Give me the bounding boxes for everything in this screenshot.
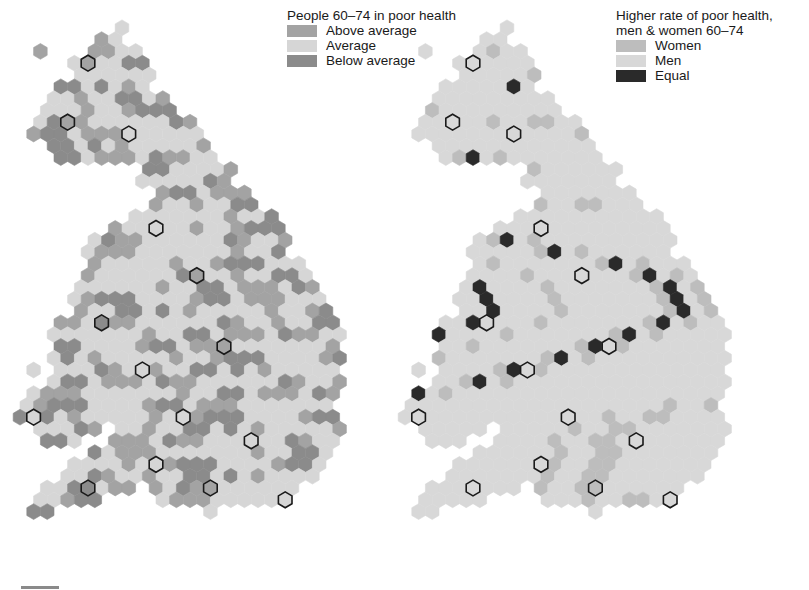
swatch-below-average xyxy=(287,55,317,67)
legend-gender-difference: Higher rate of poor health, men & women … xyxy=(616,8,773,83)
legend-item-average: Average xyxy=(287,38,456,53)
legend-label: Above average xyxy=(326,23,417,38)
swatch-men xyxy=(616,55,646,67)
swatch-women xyxy=(616,40,646,52)
legend-item-women: Women xyxy=(616,38,773,53)
legend-label: Women xyxy=(655,38,701,53)
hex-map-gender-difference xyxy=(0,0,809,590)
swatch-above-average xyxy=(287,25,317,37)
right-map-panel xyxy=(0,0,809,590)
hex-cell xyxy=(412,362,426,378)
legend-item-above-average: Above average xyxy=(287,23,456,38)
swatch-equal xyxy=(616,70,646,82)
legend-label: Equal xyxy=(655,68,690,83)
legend-label: Below average xyxy=(326,53,415,68)
legend-title: People 60–74 in poor health xyxy=(287,8,456,23)
legend-poor-health: People 60–74 in poor health Above averag… xyxy=(287,8,456,68)
legend-label: Average xyxy=(326,38,376,53)
swatch-average xyxy=(287,40,317,52)
legend-title-line2: men & women 60–74 xyxy=(616,23,773,38)
legend-item-equal: Equal xyxy=(616,68,773,83)
legend-item-men: Men xyxy=(616,53,773,68)
legend-label: Men xyxy=(655,53,681,68)
legend-title-line1: Higher rate of poor health, xyxy=(616,8,773,23)
scale-bar xyxy=(21,586,59,589)
legend-item-below-average: Below average xyxy=(287,53,456,68)
